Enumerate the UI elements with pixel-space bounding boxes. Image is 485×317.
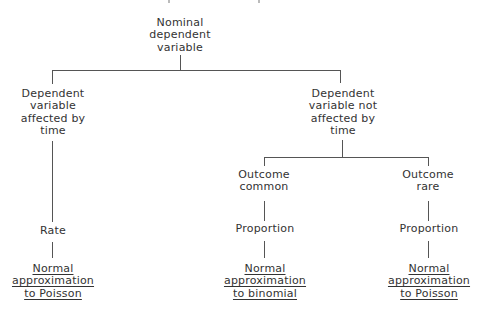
node-affected-by-time: Dependent variable affected by time bbox=[21, 88, 86, 137]
node-text: variable not bbox=[309, 100, 377, 112]
connector-line bbox=[264, 157, 429, 158]
connector-line bbox=[428, 157, 429, 166]
cropped-text-fragment bbox=[258, 0, 260, 3]
node-text: approximation bbox=[224, 275, 306, 287]
node-text: variable bbox=[149, 42, 210, 54]
node-text: time bbox=[21, 125, 86, 137]
connector-line bbox=[264, 157, 265, 166]
node-test-binomial: Normal approximation to binomial bbox=[224, 263, 306, 300]
node-text: rare bbox=[402, 181, 454, 193]
node-proportion-rare: Proportion bbox=[400, 223, 459, 235]
node-text: Proportion bbox=[236, 223, 295, 235]
connector-line bbox=[428, 201, 429, 221]
connector-line bbox=[264, 241, 265, 258]
node-test-poisson-rare: Normal approximation to Poisson bbox=[388, 263, 470, 300]
node-outcome-rare: Outcome rare bbox=[402, 169, 454, 194]
node-not-affected-by-time: Dependent variable not affected by time bbox=[309, 88, 377, 137]
node-root: Nominal dependent variable bbox=[149, 17, 210, 54]
node-text: approximation bbox=[388, 275, 470, 287]
connector-line bbox=[342, 140, 343, 157]
node-text: common bbox=[238, 181, 290, 193]
connector-line bbox=[52, 70, 53, 84]
node-text: to binomial bbox=[224, 288, 306, 300]
cropped-text-fragment bbox=[168, 0, 170, 3]
node-test-poisson-rate: Normal approximation to Poisson bbox=[12, 263, 94, 300]
node-text: dependent bbox=[149, 29, 210, 41]
connector-line bbox=[340, 70, 341, 83]
node-rate: Rate bbox=[40, 225, 66, 237]
connector-line bbox=[52, 141, 53, 222]
node-text: approximation bbox=[12, 275, 94, 287]
connector-line bbox=[52, 70, 341, 71]
node-text: time bbox=[309, 125, 377, 137]
connector-line bbox=[428, 241, 429, 258]
node-text: to Poisson bbox=[12, 288, 94, 300]
connector-line bbox=[180, 55, 181, 70]
node-text: to Poisson bbox=[388, 288, 470, 300]
connector-line bbox=[264, 201, 265, 221]
node-text: Rate bbox=[40, 225, 66, 237]
node-proportion-common: Proportion bbox=[236, 223, 295, 235]
node-text: Proportion bbox=[400, 223, 459, 235]
node-outcome-common: Outcome common bbox=[238, 169, 290, 194]
connector-line bbox=[52, 242, 53, 258]
node-text: variable bbox=[21, 100, 86, 112]
